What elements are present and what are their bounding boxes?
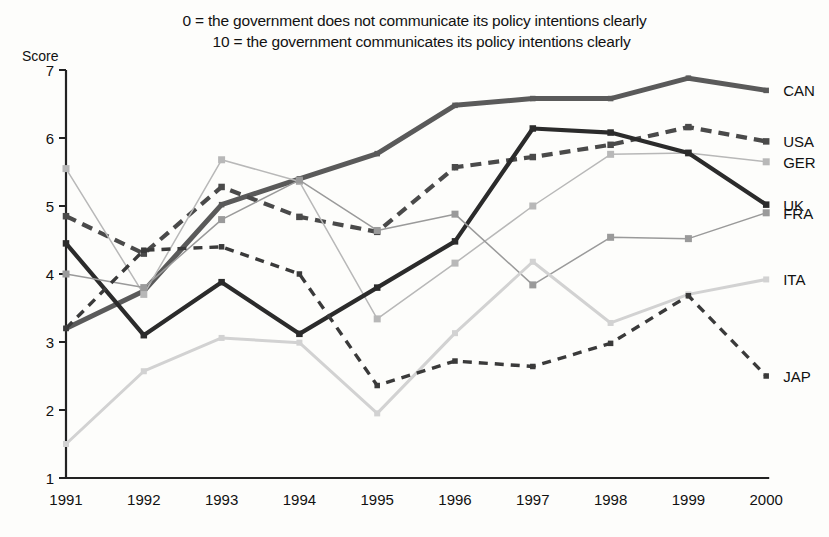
data-point-uk-1993: [218, 279, 225, 286]
y-axis-tick-label: 2: [46, 402, 54, 419]
data-point-ger-2000: [763, 158, 770, 165]
y-axis-tick-label: 5: [46, 198, 54, 215]
data-point-fra-1997: [529, 281, 536, 288]
data-point-ger-1996: [452, 260, 459, 267]
data-point-can-1999: [686, 75, 692, 81]
legend-label-ger: GER: [783, 154, 816, 171]
data-point-can-1998: [608, 96, 614, 102]
data-point-usa-1996: [452, 164, 459, 171]
data-point-uk-1999: [685, 150, 692, 157]
x-axis-tick-label: 1996: [438, 491, 471, 508]
x-axis-tick-label: 1998: [594, 491, 627, 508]
data-point-fra-1996: [452, 211, 459, 218]
data-point-fra-1994: [296, 177, 303, 184]
x-axis-tick-label: 1999: [672, 491, 705, 508]
legend-label-can: CAN: [783, 82, 815, 99]
data-point-jap-1996: [452, 358, 458, 364]
data-point-jap-1994: [297, 271, 303, 277]
data-point-jap-1998: [608, 341, 614, 347]
data-point-ger-1998: [607, 151, 614, 158]
data-point-ita-1994: [296, 340, 302, 346]
x-axis-tick-label: 1997: [516, 491, 549, 508]
data-point-can-1993: [219, 202, 225, 208]
data-point-usa-1997: [530, 154, 537, 161]
x-axis: 1991199219931994199519961997199819992000: [49, 478, 783, 508]
data-point-fra-1992: [140, 284, 147, 291]
data-point-uk-1995: [374, 284, 381, 291]
data-point-ita-1993: [219, 335, 225, 341]
data-point-can-2000: [763, 88, 769, 94]
data-point-can-1995: [374, 151, 380, 157]
data-point-fra-1998: [607, 234, 614, 241]
data-point-jap-1997: [530, 364, 536, 370]
line-chart-svg: 1234567 19911992199319941995199619971998…: [0, 0, 829, 537]
data-point-uk-1996: [452, 238, 459, 245]
data-point-usa-1999: [685, 124, 692, 130]
y-axis-tick-label: 1: [46, 470, 54, 487]
series-line-fra: [66, 180, 766, 287]
data-point-ger-1995: [374, 315, 381, 322]
data-point-ger-1997: [529, 203, 536, 210]
data-point-ger-1992: [140, 291, 147, 298]
x-axis-tick-label: 1991: [49, 491, 82, 508]
data-point-ita-1997: [530, 259, 536, 265]
legend-label-jap: JAP: [783, 368, 811, 385]
y-axis-tick-label: 3: [46, 334, 54, 351]
y-axis-tick-label: 7: [46, 62, 54, 79]
data-point-ita-1998: [608, 320, 614, 326]
data-point-jap-1995: [374, 383, 380, 389]
data-point-uk-2000: [763, 201, 770, 208]
x-axis-tick-label: 1992: [127, 491, 160, 508]
data-point-jap-1993: [219, 244, 225, 250]
data-point-ita-1992: [141, 368, 147, 374]
legend: CANUSAGERUKFRAITAJAP: [783, 82, 816, 385]
data-point-ger-1993: [218, 156, 225, 163]
y-axis-tick-label: 4: [46, 266, 54, 283]
data-point-ita-1996: [452, 330, 458, 336]
series-lines: [63, 75, 770, 447]
chart-container: 0 = the government does not communicate …: [0, 0, 829, 537]
data-point-usa-1991: [63, 213, 70, 220]
data-point-ita-1995: [374, 410, 380, 416]
data-point-ita-1991: [63, 441, 69, 447]
data-point-usa-1998: [607, 142, 614, 149]
data-point-ger-1991: [63, 165, 70, 172]
data-point-ita-2000: [763, 276, 769, 282]
data-point-uk-1998: [607, 129, 614, 136]
data-point-fra-1991: [63, 271, 70, 278]
data-point-jap-1999: [686, 293, 692, 299]
y-axis-tick-label: 6: [46, 130, 54, 147]
legend-label-usa: USA: [783, 133, 814, 150]
data-point-fra-1999: [685, 235, 692, 242]
x-axis-tick-label: 1995: [361, 491, 394, 508]
data-point-usa-1994: [296, 214, 303, 221]
x-axis-tick-label: 1993: [205, 491, 238, 508]
data-point-can-1996: [452, 103, 458, 109]
data-point-fra-2000: [763, 209, 770, 216]
series-line-ita: [66, 262, 766, 444]
legend-label-fra: FRA: [783, 205, 813, 222]
data-point-fra-1995: [374, 227, 381, 234]
data-point-uk-1994: [296, 331, 303, 338]
x-axis-tick-label: 2000: [750, 491, 783, 508]
series-line-ger: [66, 153, 766, 319]
data-point-fra-1993: [218, 216, 225, 223]
legend-label-ita: ITA: [783, 271, 805, 288]
data-point-usa-1993: [218, 184, 225, 191]
data-point-jap-1992: [141, 247, 147, 253]
data-point-uk-1991: [63, 240, 70, 247]
data-point-jap-2000: [763, 373, 769, 379]
data-point-can-1997: [530, 96, 536, 102]
data-point-uk-1997: [530, 125, 537, 132]
data-point-usa-2000: [763, 138, 770, 145]
x-axis-tick-label: 1994: [283, 491, 316, 508]
data-point-jap-1991: [63, 326, 69, 332]
data-point-uk-1992: [141, 332, 148, 339]
